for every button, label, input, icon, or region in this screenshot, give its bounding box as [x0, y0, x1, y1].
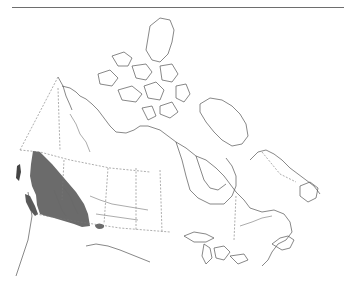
- range-area-british-columbia: [30, 151, 90, 227]
- range-area-haida-gwaii: [16, 164, 21, 181]
- canada-range-map: [0, 0, 354, 282]
- coastlines: [16, 18, 320, 276]
- rivers: [54, 114, 272, 226]
- species-range: [16, 151, 104, 229]
